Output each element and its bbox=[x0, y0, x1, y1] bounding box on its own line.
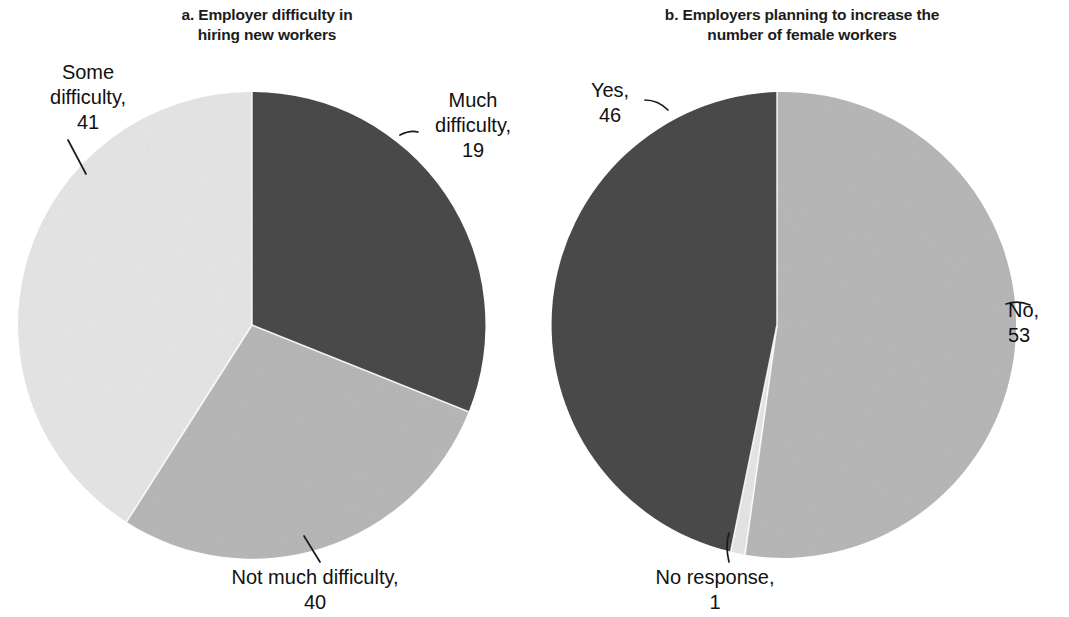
label-much-difficulty-line1: Much bbox=[418, 88, 528, 113]
label-no-line1: No, bbox=[1008, 298, 1063, 323]
label-yes-line1: Yes, bbox=[560, 78, 660, 103]
label-some-difficulty-value: 41 bbox=[18, 110, 158, 135]
label-not-much-difficulty-line1: Not much difficulty, bbox=[190, 565, 440, 590]
label-no-value: 53 bbox=[1008, 323, 1063, 348]
label-no-response-line1: No response, bbox=[600, 565, 830, 590]
label-not-much-difficulty-value: 40 bbox=[190, 590, 440, 615]
label-yes: Yes, 46 bbox=[560, 78, 660, 128]
two-pie-chart-figure: a. Employer difficulty in hiring new wor… bbox=[0, 0, 1069, 617]
label-much-difficulty-line2: difficulty, bbox=[418, 113, 528, 138]
pie-b-slice-yes bbox=[552, 92, 777, 552]
label-no: No, 53 bbox=[1008, 298, 1063, 348]
label-much-difficulty: Much difficulty, 19 bbox=[418, 88, 528, 163]
pie-b-slice-no bbox=[745, 92, 1016, 558]
label-no-response-value: 1 bbox=[600, 590, 830, 615]
pie-b bbox=[552, 92, 1016, 558]
pie-charts-graphic bbox=[0, 0, 1069, 617]
label-some-difficulty-line1: Some bbox=[18, 60, 158, 85]
label-some-difficulty-line2: difficulty, bbox=[18, 85, 158, 110]
leader-line-much-difficulty bbox=[400, 131, 418, 135]
label-some-difficulty: Some difficulty, 41 bbox=[18, 60, 158, 135]
label-much-difficulty-value: 19 bbox=[418, 138, 528, 163]
label-yes-value: 46 bbox=[560, 103, 660, 128]
label-no-response: No response, 1 bbox=[600, 565, 830, 615]
leader-line-some-difficulty bbox=[68, 140, 86, 174]
label-not-much-difficulty: Not much difficulty, 40 bbox=[190, 565, 440, 615]
